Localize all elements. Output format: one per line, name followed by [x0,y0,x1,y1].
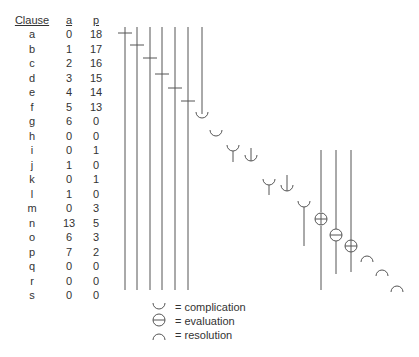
legend-complication-label: = complication [175,301,246,313]
legend-resolution-label: = resolution [175,329,232,341]
complication-icon [153,303,165,309]
resolution-icon [153,334,165,340]
orientation-lines [118,27,202,290]
resolution-markers [361,256,403,292]
legend-symbols [153,303,165,340]
legend-evaluation-label: = evaluation [175,315,235,327]
complication-markers [196,112,310,246]
evaluation-markers [315,150,357,290]
